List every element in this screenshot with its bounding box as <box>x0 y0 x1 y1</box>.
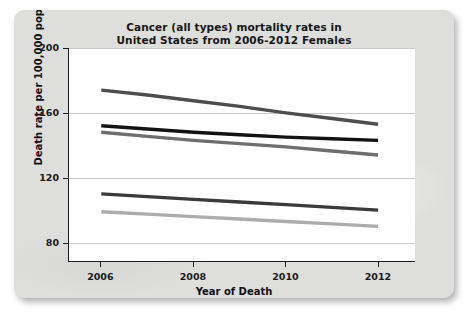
line-series-2 <box>101 126 378 141</box>
x-tick-label-2010: 2010 <box>263 271 307 282</box>
y-tick-mark-160 <box>63 113 68 114</box>
x-tick-mark-2006 <box>100 262 101 267</box>
line-series-1 <box>101 90 378 124</box>
chart-title: Cancer (all types) mortality rates in Un… <box>14 21 454 47</box>
y-tick-mark-80 <box>63 243 68 244</box>
x-tick-label-2008: 2008 <box>171 271 215 282</box>
y-tick-label-80: 80 <box>25 237 59 248</box>
y-tick-label-120: 120 <box>25 172 59 183</box>
x-tick-mark-2010 <box>285 262 286 267</box>
plot-area <box>68 48 415 262</box>
series-lines <box>69 48 415 262</box>
x-tick-label-2006: 2006 <box>78 271 122 282</box>
line-series-4 <box>101 194 378 210</box>
chart-card: Cancer (all types) mortality rates in Un… <box>14 10 454 298</box>
y-tick-mark-200 <box>63 48 68 49</box>
y-axis-title: Death rate per 100,000 population <box>33 10 44 168</box>
x-tick-mark-2008 <box>193 262 194 267</box>
y-tick-mark-120 <box>63 178 68 179</box>
x-tick-label-2012: 2012 <box>356 271 400 282</box>
x-axis-title: Year of Death <box>14 286 454 297</box>
x-tick-mark-2012 <box>378 262 379 267</box>
line-series-5 <box>101 212 378 227</box>
